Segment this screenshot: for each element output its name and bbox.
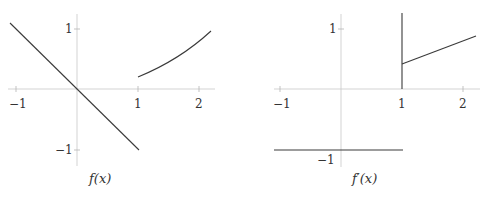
f-curved-segment [138,31,211,77]
x-tick-label-minus1: −1 [9,97,27,111]
figure: −1 1 2 1 −1 f(x) −1 1 2 1 −1 f′(x) [0,0,484,197]
caption-f-prime: f′(x) [351,171,377,186]
x-tick-label-1: 1 [134,97,142,111]
x-tick-label-2: 2 [459,97,467,111]
y-tick-label-minus1: −1 [55,143,73,157]
plot-f-prime: −1 1 2 1 −1 f′(x) [273,13,480,186]
x-tick-label-2: 2 [195,97,203,111]
y-tick-label-1: 1 [329,22,337,36]
caption-f: f(x) [88,171,111,186]
y-tick-label-minus1: −1 [317,153,335,167]
x-tick-label-minus1: −1 [273,97,291,111]
y-tick-label-1: 1 [65,22,73,36]
plot-f: −1 1 2 1 −1 f(x) [8,14,215,186]
f-prime-linear-segment [402,36,476,64]
x-tick-label-1: 1 [398,97,406,111]
f-linear-segment [10,23,139,150]
